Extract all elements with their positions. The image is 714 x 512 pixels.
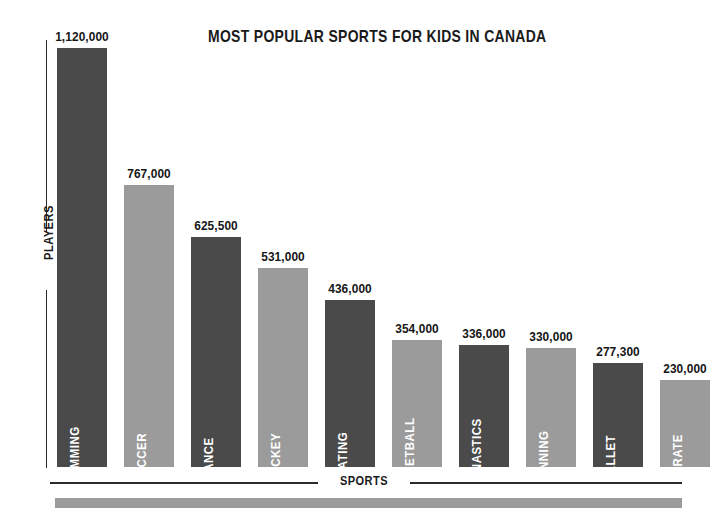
bar-rect[interactable]: SOCCER [124, 185, 174, 467]
bar-category-label: SOCCER [134, 433, 149, 485]
bar-value-label: 767,000 [108, 166, 191, 181]
bar-rect[interactable]: KARATE [660, 380, 710, 467]
bar-category-label: RUNNING [536, 430, 551, 487]
bar-category-label: HOCKEY [268, 433, 283, 485]
bar-rect[interactable]: RUNNING [526, 348, 576, 467]
bar-category-label: KARATE [670, 434, 685, 484]
bar-rect[interactable]: HOCKEY [258, 268, 308, 467]
y-axis-label: PLAYERS [41, 194, 56, 271]
bar-value-label: 277,300 [577, 344, 660, 359]
bar-value-label: 1,120,000 [41, 29, 124, 44]
bar-category-label: BASKETBALL [402, 418, 417, 501]
footer-band [55, 498, 682, 508]
bar-category-label: GYMNASTICS [469, 418, 484, 500]
bar-rect[interactable]: GYMNASTICS [459, 345, 509, 467]
bar-rect[interactable]: SWIMMING [57, 48, 107, 467]
bar-rect[interactable]: DANCE [191, 237, 241, 467]
y-axis: PLAYERS [46, 40, 48, 468]
bar-value-label: 330,000 [510, 329, 593, 344]
x-axis: SPORTS [50, 482, 682, 485]
bar-value-label: 436,000 [309, 281, 392, 296]
x-axis-line-right [410, 482, 682, 484]
bar-rect[interactable]: BALLET [593, 363, 643, 467]
bar-rect[interactable]: SKATING [325, 300, 375, 467]
bar-category-label: BALLET [603, 435, 618, 483]
plot-area: 1,120,000SWIMMING767,000SOCCER625,500DAN… [57, 20, 687, 467]
x-axis-line-left [50, 482, 318, 484]
bar-category-label: DANCE [201, 437, 216, 480]
x-axis-label: SPORTS [325, 473, 403, 488]
bar-value-label: 230,000 [644, 361, 714, 376]
bar-rect[interactable]: BASKETBALL [392, 340, 442, 467]
bar-value-label: 531,000 [242, 249, 325, 264]
bar-value-label: 625,500 [175, 218, 258, 233]
y-axis-line-lower [46, 290, 47, 468]
